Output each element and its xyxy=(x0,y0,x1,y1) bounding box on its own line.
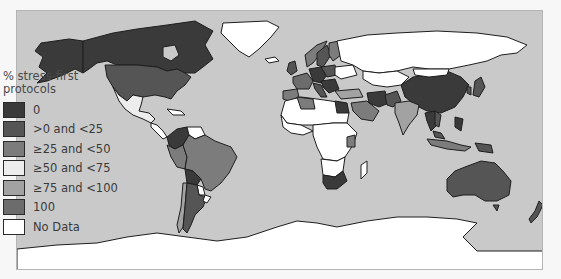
region-mongolia xyxy=(413,69,449,77)
region-russia xyxy=(337,31,527,73)
legend-swatch xyxy=(3,141,25,157)
region-ukraine xyxy=(335,65,357,79)
legend-swatch xyxy=(3,180,25,196)
region-indonesia xyxy=(427,139,471,151)
region-malaysia xyxy=(433,131,445,139)
region-uruguay xyxy=(203,195,211,203)
legend-item: >0 and <25 xyxy=(3,120,133,140)
legend-label: ≥25 and <50 xyxy=(33,142,111,156)
legend-title: % stress-first protocols xyxy=(3,70,113,96)
legend-list: 0 >0 and <25 ≥25 and <50 ≥50 and <75 ≥75… xyxy=(3,100,133,237)
legend-label: ≥50 and <75 xyxy=(33,161,111,175)
region-france xyxy=(293,73,313,89)
region-australia xyxy=(447,161,511,201)
region-kenya xyxy=(347,135,355,147)
region-india xyxy=(395,101,419,135)
region-greenland xyxy=(221,21,279,57)
legend-swatch xyxy=(3,102,25,118)
region-turkey xyxy=(335,89,363,99)
region-central-america xyxy=(151,123,167,139)
legend-item: ≥75 and <100 xyxy=(3,178,133,198)
legend-label: 100 xyxy=(33,200,55,214)
legend-label: 0 xyxy=(33,103,40,117)
legend-label: No Data xyxy=(33,220,80,234)
legend-swatch xyxy=(3,219,25,235)
legend-label: >0 and <25 xyxy=(33,122,103,136)
legend-swatch xyxy=(3,160,25,176)
region-korea xyxy=(467,87,471,95)
region-canada xyxy=(83,21,213,73)
legend-swatch xyxy=(3,199,25,215)
legend: % stress-first protocols 0 >0 and <25 ≥2… xyxy=(3,70,133,237)
region-iceland xyxy=(265,57,279,63)
region-uk xyxy=(287,61,297,75)
region-new-zealand xyxy=(529,201,543,223)
region-vietnam xyxy=(435,111,441,127)
region-egypt xyxy=(335,101,349,113)
legend-item: No Data xyxy=(3,217,133,237)
region-png xyxy=(475,143,493,153)
legend-label: ≥75 and <100 xyxy=(33,181,118,195)
region-tasmania xyxy=(493,205,499,211)
region-japan xyxy=(473,77,485,97)
legend-swatch xyxy=(3,121,25,137)
region-caribbean xyxy=(167,109,185,115)
region-madagascar xyxy=(361,161,367,179)
legend-item: ≥50 and <75 xyxy=(3,159,133,179)
legend-item: 100 xyxy=(3,198,133,218)
legend-item: ≥25 and <50 xyxy=(3,139,133,159)
legend-item: 0 xyxy=(3,100,133,120)
region-philippines xyxy=(455,117,463,131)
